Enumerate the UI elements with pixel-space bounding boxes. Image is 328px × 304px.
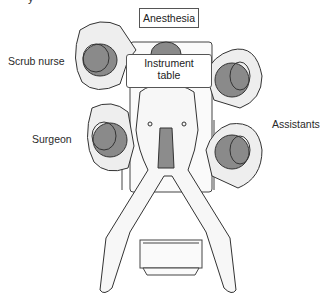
surgeon-figure	[87, 104, 134, 171]
foot-board	[140, 240, 202, 275]
assistants-label: Assistants	[272, 118, 320, 130]
instrument-table-label-line2: table	[127, 69, 211, 81]
assistant-figure-1	[206, 49, 262, 108]
scrub-nurse-label: Scrub nurse	[8, 55, 65, 67]
instrument-table-box: Instrument table	[126, 54, 212, 88]
incision-area	[158, 128, 174, 168]
anesthesia-label-box: Anesthesia	[139, 8, 199, 28]
surgeon-label: Surgeon	[32, 133, 72, 145]
instrument-table-label-line1: Instrument	[127, 57, 211, 69]
operating-room-illustration	[0, 0, 328, 304]
